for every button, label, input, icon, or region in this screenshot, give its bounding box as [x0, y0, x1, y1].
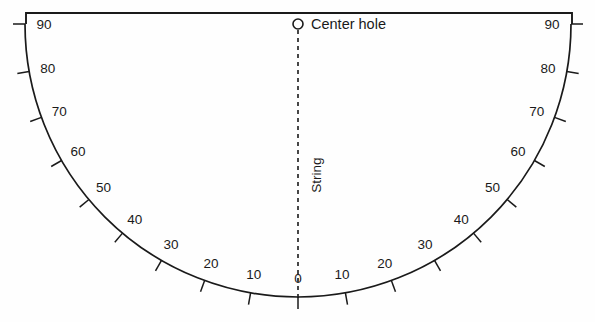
scale-tick	[30, 117, 41, 121]
scale-label: 10	[335, 267, 350, 282]
scale-tick	[201, 281, 205, 292]
scale-tick	[345, 293, 347, 305]
scale-label: 90	[544, 17, 559, 32]
scale-label: 90	[36, 17, 51, 32]
scale-label: 20	[204, 256, 219, 271]
scale-tick	[80, 199, 89, 207]
string-label: String	[309, 157, 324, 192]
scale-tick	[115, 233, 123, 242]
scale-label: 60	[510, 144, 525, 159]
scale-label: 40	[454, 212, 469, 227]
scale-label: 50	[96, 180, 111, 195]
scale-label: 20	[377, 256, 392, 271]
center-hole-icon	[293, 19, 303, 29]
scale-label: 70	[52, 104, 67, 119]
scale-tick	[534, 161, 544, 167]
scale-label: 10	[246, 267, 261, 282]
scale-tick	[156, 260, 162, 270]
scale-label: 70	[529, 104, 544, 119]
scale-label: 80	[40, 61, 55, 76]
scale-tick	[249, 293, 251, 305]
scale-label: 80	[541, 61, 556, 76]
clinometer-diagram: 9080706050403020100102030405060708090 St…	[0, 0, 595, 322]
scale-label: 40	[127, 212, 142, 227]
scale-tick	[555, 117, 566, 121]
scale-tick	[567, 71, 579, 73]
scale-tick	[507, 199, 516, 207]
scale-tick	[435, 260, 441, 270]
scale-label: 60	[71, 144, 86, 159]
scale-label: 50	[485, 180, 500, 195]
scale-tick	[51, 161, 61, 167]
scale-tick	[17, 71, 29, 73]
scale-label: 30	[417, 237, 432, 252]
scale-tick	[391, 281, 395, 292]
diagram-canvas: 9080706050403020100102030405060708090 St…	[0, 0, 595, 322]
center-hole-label: Center hole	[311, 16, 386, 32]
scale-tick	[473, 233, 481, 242]
scale-label: 30	[163, 237, 178, 252]
